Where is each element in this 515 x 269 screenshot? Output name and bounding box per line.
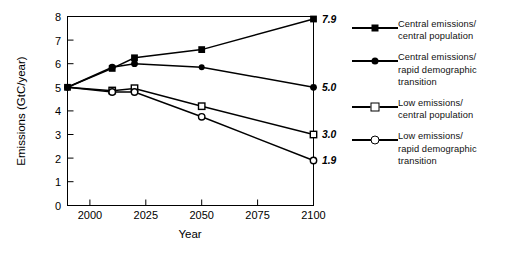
x-tick-label: 2050: [189, 209, 213, 221]
y-axis-title: Emissions (GtC/year): [15, 56, 27, 165]
emissions-scenarios-figure: 8 7 6 5 4 3 2 1 0 2000 2025 2050 2075 21…: [0, 0, 515, 269]
legend-item-low-rapid[interactable]: Low emissions/ rapid demographic transit…: [352, 130, 515, 167]
series-low-emissions-rapid-demographic-transition: 1.9: [68, 87, 337, 166]
data-point-marker: [109, 89, 115, 95]
y-tick-label: 0: [55, 200, 61, 212]
data-point-marker: [198, 46, 205, 53]
data-point-marker: [310, 84, 317, 91]
legend-item-central-rapid[interactable]: Central emissions/ rapid demographic tra…: [352, 51, 515, 88]
series-end-label: 7.9: [322, 14, 337, 25]
series-low-emissions-central-population: 3.0: [68, 85, 337, 140]
y-tick-label: 4: [55, 105, 61, 117]
y-tick-label: 6: [55, 58, 61, 70]
legend-item-label: Central emissions/ rapid demographic tra…: [398, 51, 477, 88]
data-point-marker: [131, 89, 137, 95]
series-line: [68, 19, 314, 87]
legend-item-label: Low emissions/ rapid demographic transit…: [398, 130, 477, 167]
data-point-marker: [199, 64, 205, 70]
data-point-marker: [131, 60, 138, 67]
x-axis-ticks: [90, 200, 314, 206]
series-end-label: 3.0: [322, 129, 337, 140]
x-axis-title: Year: [178, 228, 201, 240]
x-tick-label: 2025: [134, 209, 158, 221]
y-tick-label: 3: [55, 129, 61, 141]
x-tick-labels: 2000 2025 2050 2075 2100: [78, 209, 326, 221]
legend-marker-square-open-icon: [352, 100, 398, 114]
x-tick-label: 2100: [301, 209, 325, 221]
data-point-marker: [131, 54, 138, 61]
series-central-emissions-rapid-demographic-transition: 5.0: [64, 60, 336, 93]
legend-marker-circle-filled-icon: [352, 54, 398, 68]
data-point-marker: [199, 114, 205, 120]
chart-legend: Central emissions/ central population Ce…: [352, 18, 515, 176]
series-end-label: 1.9: [322, 155, 337, 166]
y-tick-labels: 8 7 6 5 4 3 2 1 0: [55, 11, 61, 212]
data-point-marker: [310, 16, 317, 23]
y-tick-label: 7: [55, 35, 61, 47]
data-point-marker: [199, 103, 205, 109]
legend-item-low-central[interactable]: Low emissions/ central population: [352, 97, 515, 121]
series-line: [68, 87, 314, 134]
plot-frame: [68, 17, 314, 206]
x-tick-label: 2000: [78, 209, 102, 221]
data-point-marker: [310, 131, 316, 137]
x-tick-label: 2075: [245, 209, 269, 221]
legend-item-label: Central emissions/ central population: [398, 18, 476, 42]
legend-marker-circle-open-icon: [352, 133, 398, 147]
legend-item-central-central[interactable]: Central emissions/ central population: [352, 18, 515, 42]
series-central-emissions-central-population: 7.9: [64, 14, 336, 91]
legend-marker-square-filled-icon: [352, 21, 398, 35]
series-end-label: 5.0: [322, 82, 337, 93]
y-tick-label: 2: [55, 153, 61, 165]
y-tick-label: 8: [55, 11, 61, 23]
series-line: [68, 64, 314, 88]
data-point-marker: [310, 157, 316, 163]
y-tick-label: 5: [55, 82, 61, 94]
legend-item-label: Low emissions/ central population: [398, 97, 473, 121]
data-point-marker: [109, 64, 116, 71]
y-tick-label: 1: [55, 176, 61, 188]
series-line: [68, 87, 314, 160]
y-axis-ticks: [68, 17, 74, 206]
